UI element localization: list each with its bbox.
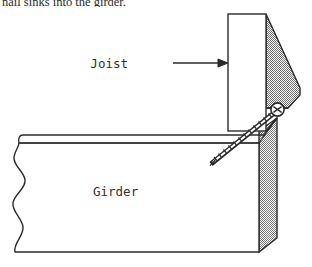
girder-end-face — [259, 118, 277, 252]
joist-leader-arrow — [173, 59, 228, 67]
figure-page: nail sinks into the girder. — [0, 0, 312, 267]
joist-girder-diagram: Joist Girder — [0, 0, 312, 267]
joist-front-face — [228, 14, 266, 131]
arrowhead-icon — [218, 59, 228, 67]
girder-top-break-curve — [19, 135, 23, 143]
girder-label: Girder — [93, 184, 139, 199]
joist-side-face — [266, 14, 300, 108]
joist-label: Joist — [90, 56, 128, 71]
